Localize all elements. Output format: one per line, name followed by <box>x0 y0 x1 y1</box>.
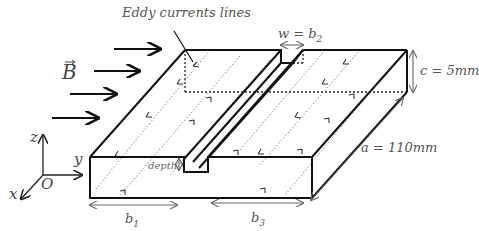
x-axis-label: x <box>9 187 17 202</box>
slot-width-subscript: 2 <box>317 34 323 44</box>
magnetic-field-label: B <box>62 62 77 82</box>
slot-width-text: w = b <box>278 26 317 41</box>
right-width-subscript: 3 <box>259 218 265 228</box>
z-axis-label: z <box>30 130 38 145</box>
length-label: a = 110mm <box>361 141 437 154</box>
slot-depth-label: depth <box>148 161 177 171</box>
eddy-currents-label: Eddy currents lines <box>122 6 251 19</box>
hidden-edges <box>185 50 407 92</box>
dimension-lines <box>90 45 413 205</box>
y-axis-label: y <box>74 152 82 167</box>
eddy-label-pointer <box>174 31 193 62</box>
left-width-label: b1 <box>125 212 139 229</box>
left-width-subscript: 1 <box>133 219 139 229</box>
right-width-label: b3 <box>251 211 265 228</box>
thickness-label: c = 5mm <box>420 64 479 77</box>
slot-width-label: w = b2 <box>278 27 322 44</box>
origin-label: O <box>41 177 53 192</box>
